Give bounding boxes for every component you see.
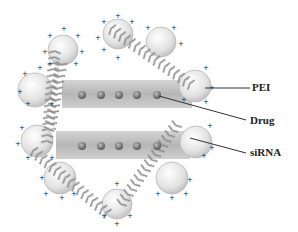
svg-text:+: + [171, 24, 177, 32]
svg-text:+: + [101, 46, 107, 54]
svg-text:+: + [73, 60, 79, 68]
svg-text:+: + [22, 70, 28, 78]
svg-text:+: + [25, 154, 31, 162]
svg-text:+: + [95, 34, 101, 42]
sirna-label: siRNA [250, 146, 281, 158]
svg-text:+: + [115, 54, 121, 62]
drug-carrier-bars [56, 80, 192, 159]
svg-text:+: + [201, 152, 207, 160]
svg-text:+: + [209, 144, 215, 152]
svg-text:+: + [19, 124, 25, 132]
svg-text:+: + [49, 154, 55, 162]
svg-text:+: + [42, 48, 48, 56]
svg-text:+: + [59, 194, 65, 202]
svg-text:+: + [155, 190, 161, 198]
svg-text:+: + [114, 220, 120, 228]
svg-text:+: + [115, 12, 121, 20]
svg-text:+: + [17, 88, 23, 96]
svg-text:+: + [15, 140, 21, 148]
svg-text:+: + [101, 18, 107, 26]
svg-text:+: + [127, 212, 133, 220]
svg-text:+: + [61, 25, 67, 33]
pei-label: PEI [252, 81, 270, 93]
svg-text:+: + [101, 212, 107, 220]
svg-text:+: + [169, 194, 175, 202]
svg-text:+: + [203, 98, 209, 106]
svg-text:+: + [71, 190, 77, 198]
svg-text:+: + [37, 64, 43, 72]
svg-text:+: + [47, 32, 53, 40]
svg-text:+: + [75, 32, 81, 40]
svg-text:+: + [145, 24, 151, 32]
drug-label: Drug [250, 114, 274, 126]
svg-text:+: + [187, 176, 193, 184]
svg-text:+: + [178, 40, 184, 48]
svg-text:+: + [114, 180, 120, 188]
svg-text:+: + [183, 190, 189, 198]
svg-text:+: + [47, 60, 53, 68]
svg-text:+: + [203, 64, 209, 72]
svg-text:+: + [39, 174, 45, 182]
svg-text:+: + [79, 48, 85, 56]
svg-text:+: + [207, 122, 213, 130]
svg-text:+: + [25, 100, 31, 108]
svg-text:+: + [43, 190, 49, 198]
svg-text:+: + [49, 100, 55, 108]
svg-text:+: + [129, 18, 135, 26]
